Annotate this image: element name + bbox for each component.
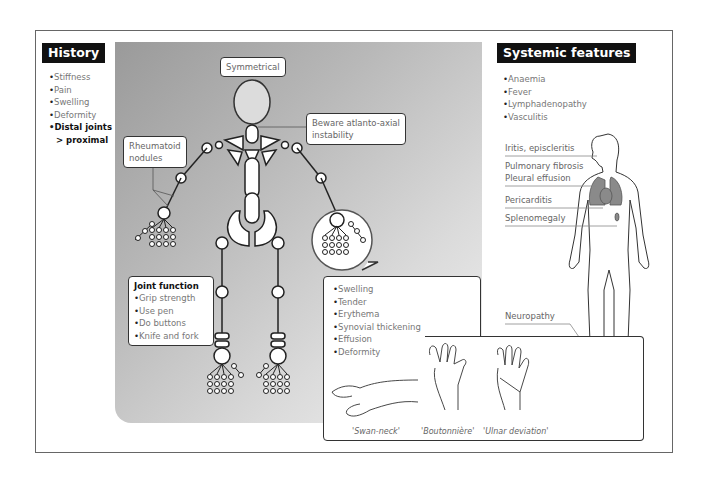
hand-deformity-illustrations bbox=[0, 0, 702, 483]
systemic-title: Systemic features bbox=[497, 43, 636, 63]
iritis-label: Iritis, episcleritis bbox=[505, 143, 575, 154]
systemic-item: Vasculitis bbox=[503, 111, 587, 124]
systemic-item: Lymphadenopathy bbox=[503, 98, 587, 111]
pericarditis-label: Pericarditis bbox=[505, 195, 552, 206]
boutonniere-caption: 'Boutonnière' bbox=[421, 427, 474, 436]
ulnar-deviation-hand-icon bbox=[497, 346, 528, 411]
swan-neck-caption: 'Swan-neck' bbox=[352, 427, 400, 436]
neuropathy-label: Neuropathy bbox=[505, 311, 555, 322]
systemic-item: Fever bbox=[503, 86, 587, 99]
swan-neck-hand-icon bbox=[332, 380, 418, 416]
pleural-effusion-label: Pleural effusion bbox=[505, 173, 571, 184]
boutonniere-hand-icon bbox=[429, 344, 465, 411]
systemic-list: Anaemia Fever Lymphadenopathy Vasculitis bbox=[503, 73, 587, 123]
systemic-item: Anaemia bbox=[503, 73, 587, 86]
pulmonary-fibrosis-label: Pulmonary fibrosis bbox=[505, 161, 584, 172]
ulnar-deviation-caption: 'Ulnar deviation' bbox=[483, 427, 548, 436]
splenomegaly-label: Splenomegaly bbox=[505, 213, 565, 224]
